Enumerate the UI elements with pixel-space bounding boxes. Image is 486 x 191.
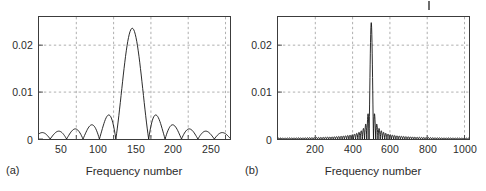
ytick-b-0: 0 (243, 134, 272, 146)
plot-canvas-a (39, 17, 230, 139)
xaxis-label-a: Frequency number (34, 165, 234, 177)
stray-tick-mark-icon (428, 1, 430, 10)
xtick-a-3: 200 (158, 143, 188, 155)
ytick-a-2: 0.02 (0, 39, 33, 51)
ytick-b-2: 0.02 (243, 39, 272, 51)
xtick-b-0: 200 (300, 143, 330, 155)
xtick-a-2: 150 (121, 143, 151, 155)
ytick-a-1: 0.01 (0, 86, 33, 98)
plot-canvas-b (278, 17, 469, 139)
figure-spectra-comparison: 0 0.01 0.02 50 100 150 200 250 Frequency… (0, 0, 486, 191)
plot-area-a (38, 16, 231, 140)
xtick-b-1: 400 (338, 143, 368, 155)
plot-area-b (277, 16, 470, 140)
xtick-a-1: 100 (83, 143, 113, 155)
xtick-a-4: 250 (196, 143, 226, 155)
xtick-b-2: 600 (375, 143, 405, 155)
panel-a: 0 0.01 0.02 50 100 150 200 250 Frequency… (0, 0, 243, 191)
panel-b: 0 0.01 0.02 200 400 600 800 1000 Frequen… (243, 0, 486, 191)
xtick-b-3: 800 (413, 143, 443, 155)
xtick-b-4: 1000 (449, 143, 481, 155)
panel-caption-a: (a) (6, 164, 19, 176)
ytick-a-0: 0 (0, 134, 33, 146)
ytick-b-1: 0.01 (243, 86, 272, 98)
xtick-a-0: 50 (46, 143, 76, 155)
xaxis-label-b: Frequency number (273, 165, 473, 177)
panel-caption-b: (b) (245, 164, 258, 176)
